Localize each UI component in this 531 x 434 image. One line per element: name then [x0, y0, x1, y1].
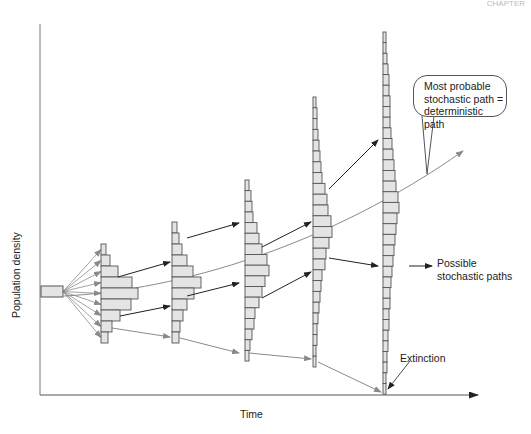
callout-box: Most probable stochastic path = determin… [413, 75, 507, 117]
histogram-bar [313, 97, 316, 108]
histogram-bar [101, 277, 132, 288]
histogram-bar [245, 308, 255, 319]
histogram-bar [172, 299, 187, 310]
histogram-bar [101, 321, 112, 332]
histogram-bar [172, 310, 183, 321]
histogram-bar [383, 85, 389, 96]
histogram-bar [245, 340, 250, 351]
histogram-bar [172, 266, 193, 277]
histogram-bar [172, 277, 201, 288]
histogram-bar [313, 345, 316, 356]
histogram-bar [101, 310, 120, 321]
histogram-bar [313, 313, 318, 324]
callout-line-2: stochastic path = [424, 93, 506, 106]
histogram-bar [172, 255, 187, 266]
histogram-bar [313, 173, 322, 184]
histogram-bar [383, 149, 393, 160]
fan-line [63, 292, 101, 327]
extinction-pointer [388, 361, 410, 389]
histogram-bar [313, 183, 325, 194]
histogram-bar [101, 299, 131, 310]
gray-arrow [249, 353, 311, 359]
histogram-bar [383, 234, 395, 245]
histogram-bar [172, 233, 179, 244]
histogram-bar [383, 341, 388, 352]
histogram-bar [245, 255, 267, 266]
histogram-bar [383, 298, 390, 309]
histogram-5 [383, 32, 399, 394]
histogram-bar [245, 201, 252, 212]
histogram-bar [245, 287, 262, 298]
x-axis-label: Time [240, 408, 263, 421]
histogram-bar [313, 194, 327, 205]
histogram-bar [313, 259, 325, 270]
possible-paths-line-1: Possible [437, 257, 512, 270]
histogram-bar [245, 350, 249, 361]
histogram-bar [313, 162, 321, 173]
histogram-bar [245, 191, 251, 202]
histogram-bar [245, 212, 253, 223]
histogram-bar [313, 302, 319, 313]
histogram-bar [383, 53, 387, 64]
histogram-bar [383, 181, 396, 192]
black-arrow [187, 223, 239, 238]
black-arrow [329, 140, 378, 189]
histogram-2 [172, 222, 201, 343]
histogram-bar [313, 291, 320, 302]
histogram-bar [245, 276, 265, 287]
histogram-bar [313, 324, 317, 335]
histogram-bar [101, 332, 108, 343]
callout-line-3: deterministic path [424, 105, 506, 130]
possible-paths-label: Possible stochastic paths [437, 257, 512, 282]
fan-line [63, 250, 101, 292]
histogram-bar [383, 96, 390, 107]
histogram-bar [383, 64, 388, 75]
histogram-bar [313, 270, 322, 281]
histogram-bar [245, 180, 249, 191]
population-diagram [0, 0, 531, 434]
histogram-bar [245, 223, 257, 234]
histogram-bar [245, 265, 269, 276]
histogram-bar [245, 233, 259, 244]
gray-arrow [318, 362, 381, 392]
histogram-bar [101, 266, 118, 277]
histogram-bar [383, 352, 387, 363]
histogram-bar [383, 43, 386, 54]
histogram-1 [101, 244, 138, 343]
histogram-bar [383, 245, 394, 256]
histogram-bar [101, 288, 138, 299]
histogram-bar [383, 117, 390, 128]
histogram-bar [383, 213, 397, 224]
histogram-bar [313, 129, 318, 140]
histogram-bar [313, 119, 317, 130]
histogram-bar [383, 383, 386, 394]
histogram-bar [313, 216, 331, 227]
initial-population-box [41, 286, 63, 297]
histogram-bar [172, 288, 194, 299]
histogram-bar [383, 202, 399, 213]
black-arrow [329, 258, 378, 266]
histogram-bar [383, 139, 392, 150]
histogram-bar [313, 356, 316, 367]
histogram-bar [313, 335, 317, 346]
histogram-bar [313, 140, 319, 151]
histogram-bar [245, 244, 262, 255]
histogram-bar [383, 362, 387, 373]
histogram-bar [383, 288, 390, 299]
black-arrow [262, 222, 311, 247]
callout-line-1: Most probable [424, 80, 506, 93]
histogram-bar [313, 237, 329, 248]
histogram-bar [383, 309, 389, 320]
extinction-label: Extinction [400, 352, 446, 365]
histogram-bar [383, 266, 392, 277]
histogram-bar [313, 151, 320, 162]
possible-paths-line-2: stochastic paths [437, 270, 512, 283]
histogram-bar [383, 128, 391, 139]
histogram-bar [172, 222, 177, 233]
histogram-bar [383, 32, 386, 43]
gray-arrow [180, 338, 239, 353]
histogram-bar [383, 192, 398, 203]
histogram-bar [383, 330, 388, 341]
histogram-bar [101, 255, 110, 266]
histogram-bar [172, 321, 180, 332]
